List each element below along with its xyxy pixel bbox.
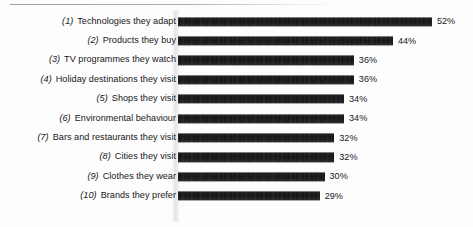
- bar-track: 30%: [178, 172, 473, 181]
- bar-value-label: 30%: [330, 172, 348, 181]
- category-rank: (8): [100, 152, 113, 162]
- bar-value-label: 32%: [339, 133, 357, 142]
- category-name: Holiday destinations they visit: [53, 74, 176, 84]
- bar-row: (8) Cities they visit32%: [0, 148, 473, 167]
- bar: [178, 192, 320, 201]
- bar-track: 32%: [178, 133, 473, 142]
- category-name: Brands they prefer: [98, 191, 176, 201]
- category-label: (4) Holiday destinations they visit: [41, 75, 177, 84]
- category-rank: (3): [49, 55, 62, 65]
- bar-row: (10) Brands they prefer29%: [0, 187, 473, 206]
- category-rank: (7): [37, 132, 50, 142]
- bar-row: (1) Technologies they adapt52%: [0, 12, 473, 31]
- category-rank: (2): [87, 36, 100, 46]
- bar-row: (2) Products they buy44%: [0, 31, 473, 50]
- category-name: Bars and restaurants they visit: [50, 132, 176, 142]
- bar-row: (6) Environmental behaviour34%: [0, 109, 473, 128]
- bar-value-label: 36%: [359, 75, 377, 84]
- category-name: Clothes they wear: [100, 171, 176, 181]
- category-label: (3) TV programmes they watch: [49, 56, 176, 65]
- bar: [178, 133, 334, 142]
- bar-row: (7) Bars and restaurants they visit32%: [0, 128, 473, 147]
- bar: [178, 95, 344, 104]
- bar-track: 52%: [178, 17, 473, 26]
- category-label: (8) Cities they visit: [100, 153, 176, 162]
- category-label: (7) Bars and restaurants they visit: [37, 133, 176, 142]
- bar-row: (4) Holiday destinations they visit36%: [0, 70, 473, 89]
- bar: [178, 17, 432, 26]
- category-name: TV programmes they watch: [62, 55, 176, 65]
- category-name: Shops they visit: [109, 94, 176, 104]
- category-rank: (10): [80, 191, 98, 201]
- bar-row: (9) Clothes they wear30%: [0, 167, 473, 186]
- bar-value-label: 44%: [398, 37, 416, 46]
- bar-track: 34%: [178, 114, 473, 123]
- category-name: Products they buy: [100, 36, 176, 46]
- bar-chart-figure: (1) Technologies they adapt52%(2) Produc…: [0, 0, 473, 227]
- category-rank: (9): [87, 171, 100, 181]
- bar: [178, 36, 393, 45]
- bar-value-label: 34%: [349, 114, 367, 123]
- category-name: Technologies they adapt: [75, 16, 176, 26]
- top-rule-divider: [10, 4, 342, 5]
- category-rank: (5): [97, 94, 110, 104]
- bar-row: (5) Shops they visit34%: [0, 90, 473, 109]
- category-rank: (4): [41, 74, 54, 84]
- bar: [178, 153, 334, 162]
- bar: [178, 114, 344, 123]
- category-name: Cities they visit: [112, 152, 176, 162]
- category-label: (5) Shops they visit: [97, 95, 176, 104]
- category-label: (6) Environmental behaviour: [59, 114, 176, 123]
- bar-value-label: 34%: [349, 95, 367, 104]
- bar-track: 32%: [178, 153, 473, 162]
- category-rank: (6): [59, 113, 72, 123]
- bar-track: 36%: [178, 75, 473, 84]
- category-rank: (1): [62, 16, 75, 26]
- bar-value-label: 29%: [325, 192, 343, 201]
- bar-track: 29%: [178, 192, 473, 201]
- chart-plot-area: (1) Technologies they adapt52%(2) Produc…: [0, 12, 473, 206]
- bar-track: 44%: [178, 36, 473, 45]
- bar-track: 36%: [178, 56, 473, 65]
- bar: [178, 172, 325, 181]
- bar: [178, 56, 354, 65]
- bar-value-label: 52%: [437, 17, 455, 26]
- bar-row: (3) TV programmes they watch36%: [0, 51, 473, 70]
- category-label: (9) Clothes they wear: [87, 172, 176, 181]
- bar-value-label: 32%: [339, 153, 357, 162]
- category-label: (2) Products they buy: [87, 37, 176, 46]
- bar: [178, 75, 354, 84]
- category-name: Environmental behaviour: [72, 113, 176, 123]
- category-label: (10) Brands they prefer: [80, 192, 176, 201]
- category-label: (1) Technologies they adapt: [62, 17, 176, 26]
- bar-track: 34%: [178, 95, 473, 104]
- bar-value-label: 36%: [359, 56, 377, 65]
